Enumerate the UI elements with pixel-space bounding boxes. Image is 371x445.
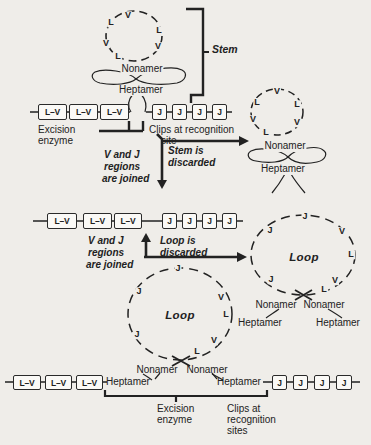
- stage2-loop-letter: V: [293, 118, 301, 127]
- row3-heptamer-right: Heptamer: [217, 377, 261, 388]
- row3-excision-enzyme-line1: Excision: [157, 404, 194, 415]
- stage1-heptamer-strands: [129, 94, 146, 112]
- right-loop-letter: J: [301, 212, 308, 221]
- stage1-heptamer-label: Heptamer: [118, 85, 164, 96]
- stem-discarded-arrowhead: [239, 136, 249, 146]
- segment-box-j: J: [202, 213, 217, 229]
- loop-discarded-label-line2: discarded: [160, 248, 207, 259]
- segment-box-j: J: [336, 375, 352, 390]
- segment-box-j: J: [314, 375, 330, 390]
- stage2-heptamer-strands: [272, 174, 305, 193]
- loop-discarded-arrowhead: [237, 252, 247, 262]
- right-loop-letter: V: [338, 227, 346, 236]
- right-loop-letter: J: [266, 226, 273, 235]
- right-loop-heptamer-left: Heptamer: [238, 318, 282, 329]
- stage2-loop-letter: V: [273, 87, 281, 96]
- stage2-loop-letter: L: [262, 128, 270, 137]
- row3-clips-label-line2: recognition: [227, 415, 276, 426]
- row3-heptamer-left: Heptamer: [106, 377, 150, 388]
- stage2-loop-letter: L: [253, 98, 261, 107]
- right-loop-letter: L: [320, 285, 328, 294]
- vj-joined-label-line1: V and J: [104, 150, 140, 161]
- stem-discarded-label-line2: discarded: [168, 158, 215, 169]
- excision-enzyme-label-line1: Excision: [38, 125, 75, 136]
- row3-excision-enzyme-line2: enzyme: [157, 415, 192, 426]
- vj-joined-arrowhead: [157, 180, 167, 189]
- segment-box-j: J: [272, 375, 287, 390]
- stage1-loop-letter: V: [154, 42, 162, 51]
- bottom-loop-title: Loop: [165, 309, 195, 321]
- right-loop-letter: V: [331, 276, 339, 285]
- vj-recombination-diagram: V L L V V L Nonamer Heptamer Stem Excisi…: [0, 0, 371, 445]
- row3-excision-bracket: [105, 390, 267, 402]
- stage2-nonamer-label: Nonamer: [263, 141, 306, 152]
- vj-joined2-label-line2: regions: [88, 248, 124, 259]
- segment-box-lv: L–V: [114, 213, 142, 229]
- excision-enzyme-label-line2: enzyme: [38, 136, 73, 147]
- right-loop-title: Loop: [289, 251, 319, 263]
- stage2-loop-letter: V: [249, 115, 257, 124]
- stage1-loop-letter: V: [102, 39, 110, 48]
- right-loop-letter: L: [347, 250, 355, 259]
- segment-box-j: J: [162, 213, 177, 229]
- stage1-nonamer-label: Nonamer: [120, 64, 163, 75]
- row3-clips-label-line3: sites: [227, 426, 248, 437]
- stem-bracket: [186, 9, 203, 103]
- bottom-loop-letter: L: [222, 310, 230, 319]
- segment-box-lv: L–V: [38, 104, 67, 120]
- segment-box-lv: L–V: [13, 375, 41, 390]
- vj-joined2-label-line3: are joined: [86, 260, 133, 271]
- stage2-loop-letter: L: [293, 100, 301, 109]
- bottom-loop-letter: V: [210, 336, 218, 345]
- loop-discarded-label-line1: Loop is: [160, 236, 196, 247]
- stem-discarded-label-line1: Stem is: [168, 146, 204, 157]
- segment-box-lv: L–V: [100, 104, 129, 120]
- stage1-loop-letter: L: [107, 18, 115, 27]
- segment-box-j: J: [182, 213, 197, 229]
- segment-box-lv: L–V: [76, 375, 103, 390]
- right-loop-nonamer-left: Nonamer: [255, 300, 296, 311]
- segment-box-lv: L–V: [69, 104, 98, 120]
- bottom-loop-letter: J: [133, 330, 140, 339]
- segment-box-j: J: [152, 104, 167, 120]
- vj-joined-label-line2: regions: [104, 162, 140, 173]
- segment-box-j: J: [212, 104, 227, 120]
- right-loop-letter: J: [267, 275, 274, 284]
- segment-box-lv: L–V: [45, 375, 72, 390]
- segment-box-j: J: [222, 213, 237, 229]
- right-loop-nonamer-right: Nonamer: [303, 300, 344, 311]
- right-loop-heptamer-right: Heptamer: [316, 318, 360, 329]
- bottom-loop-nonamer-left: Nonamer: [136, 365, 177, 376]
- segment-box-j: J: [293, 375, 308, 390]
- bottom-loop-letter: J: [174, 264, 181, 273]
- stage1-loop-letter: L: [114, 52, 122, 61]
- bottom-loop-letter: V: [217, 293, 225, 302]
- stage2-heptamer-label: Heptamer: [260, 164, 306, 175]
- row3-clips-label-line1: Clips at: [227, 404, 260, 415]
- vj-joined2-label-line1: V and J: [88, 236, 124, 247]
- clips-at-recognition-label-line1: Clips at recognition: [149, 125, 234, 136]
- bottom-loop-letter: L: [193, 347, 201, 356]
- segment-box-lv: L–V: [47, 213, 77, 229]
- excision-enzyme-pointer: [99, 121, 143, 131]
- stage1-loop-letter: V: [124, 11, 132, 20]
- segment-box-j: J: [172, 104, 187, 120]
- bottom-loop-nonamer-right: Nonamer: [186, 365, 227, 376]
- stage1-loop-letter: L: [155, 26, 163, 35]
- vj-joined-label-line3: are joined: [102, 174, 149, 185]
- segment-box-j: J: [192, 104, 207, 120]
- stem-annotation: Stem: [212, 44, 238, 55]
- vj-joined-arrow2-head: [141, 233, 151, 242]
- bottom-loop-letter: J: [135, 287, 142, 296]
- segment-box-lv: L–V: [83, 213, 112, 229]
